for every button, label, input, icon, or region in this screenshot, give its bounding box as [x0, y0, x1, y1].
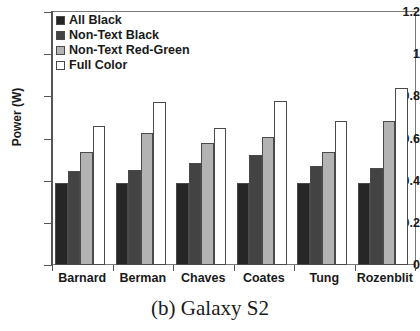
- x-tick: [415, 265, 416, 271]
- bar-chaves-non-text-red-green: [201, 143, 214, 265]
- x-tick-label-berman: Berman: [119, 271, 166, 285]
- y-tick: [44, 96, 52, 97]
- y-tick: [44, 139, 52, 140]
- legend-item-full-color[interactable]: Full Color: [56, 58, 190, 73]
- bar-berman-non-text-red-green: [141, 133, 154, 265]
- bar-rozenblit-non-text-red-green: [383, 121, 396, 265]
- bar-coates-non-text-black: [249, 155, 262, 265]
- bar-rozenblit-non-text-black: [370, 168, 383, 265]
- bar-berman-all-black: [116, 183, 129, 265]
- x-tick-label-coates: Coates: [243, 271, 285, 285]
- bar-chaves-all-black: [176, 183, 189, 265]
- bar-coates-all-black: [237, 183, 250, 265]
- legend-item-non-text-black[interactable]: Non-Text Black: [56, 28, 190, 43]
- bar-berman-non-text-black: [128, 170, 141, 265]
- bar-chaves-non-text-black: [189, 163, 202, 265]
- legend-swatch-all-black: [56, 16, 65, 25]
- legend-label-full-color: Full Color: [69, 59, 127, 72]
- figure-caption: (b) Galaxy S2: [0, 296, 420, 321]
- y-axis-label: Power (W): [10, 72, 24, 162]
- x-tick: [173, 265, 174, 271]
- x-tick-label-chaves: Chaves: [181, 271, 225, 285]
- bar-tung-all-black: [297, 183, 310, 265]
- y-tick: [44, 265, 52, 266]
- x-tick-label-tung: Tung: [309, 271, 339, 285]
- x-tick: [355, 265, 356, 271]
- bar-chaves-full-color: [214, 128, 227, 265]
- legend-swatch-full-color: [56, 61, 65, 70]
- x-tick: [234, 265, 235, 271]
- legend-item-all-black[interactable]: All Black: [56, 13, 190, 28]
- bar-berman-full-color: [153, 102, 166, 265]
- x-tick-label-barnard: Barnard: [58, 271, 106, 285]
- y-tick: [44, 12, 52, 13]
- y-tick: [44, 54, 52, 55]
- bar-barnard-full-color: [93, 126, 106, 265]
- bar-rozenblit-full-color: [395, 88, 408, 265]
- x-tick: [113, 265, 114, 271]
- legend-swatch-non-text-black: [56, 31, 65, 40]
- bar-barnard-all-black: [55, 183, 68, 265]
- bar-barnard-non-text-black: [68, 171, 81, 265]
- x-tick-label-rozenblit: Rozenblit: [357, 271, 413, 285]
- legend-swatch-non-text-red-green: [56, 46, 65, 55]
- legend: All Black Non-Text Black Non-Text Red-Gr…: [56, 12, 190, 73]
- x-tick: [294, 265, 295, 271]
- bar-barnard-non-text-red-green: [80, 152, 93, 265]
- bar-rozenblit-all-black: [358, 183, 371, 265]
- x-tick: [52, 265, 53, 271]
- legend-label-all-black: All Black: [69, 14, 122, 27]
- legend-label-non-text-red-green: Non-Text Red-Green: [69, 44, 190, 57]
- legend-label-non-text-black: Non-Text Black: [69, 29, 159, 42]
- bar-coates-full-color: [274, 101, 287, 265]
- bar-coates-non-text-red-green: [262, 137, 275, 265]
- bar-tung-full-color: [335, 121, 348, 265]
- y-tick: [44, 181, 52, 182]
- legend-item-non-text-red-green[interactable]: Non-Text Red-Green: [56, 43, 190, 58]
- figure-galaxy-s2: Power (W) 00.20.40.60.811.2 BarnardBerma…: [0, 0, 420, 331]
- bar-tung-non-text-black: [310, 166, 323, 265]
- y-tick: [44, 223, 52, 224]
- bar-tung-non-text-red-green: [322, 152, 335, 265]
